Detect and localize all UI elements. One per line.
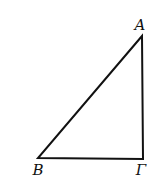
vertex-label-gamma: Γ: [135, 161, 147, 179]
vertex-label-b: B: [31, 161, 43, 179]
triangle-diagram: A B Γ: [0, 0, 165, 191]
triangle-abg: [38, 36, 143, 159]
vertex-label-a: A: [133, 16, 146, 34]
